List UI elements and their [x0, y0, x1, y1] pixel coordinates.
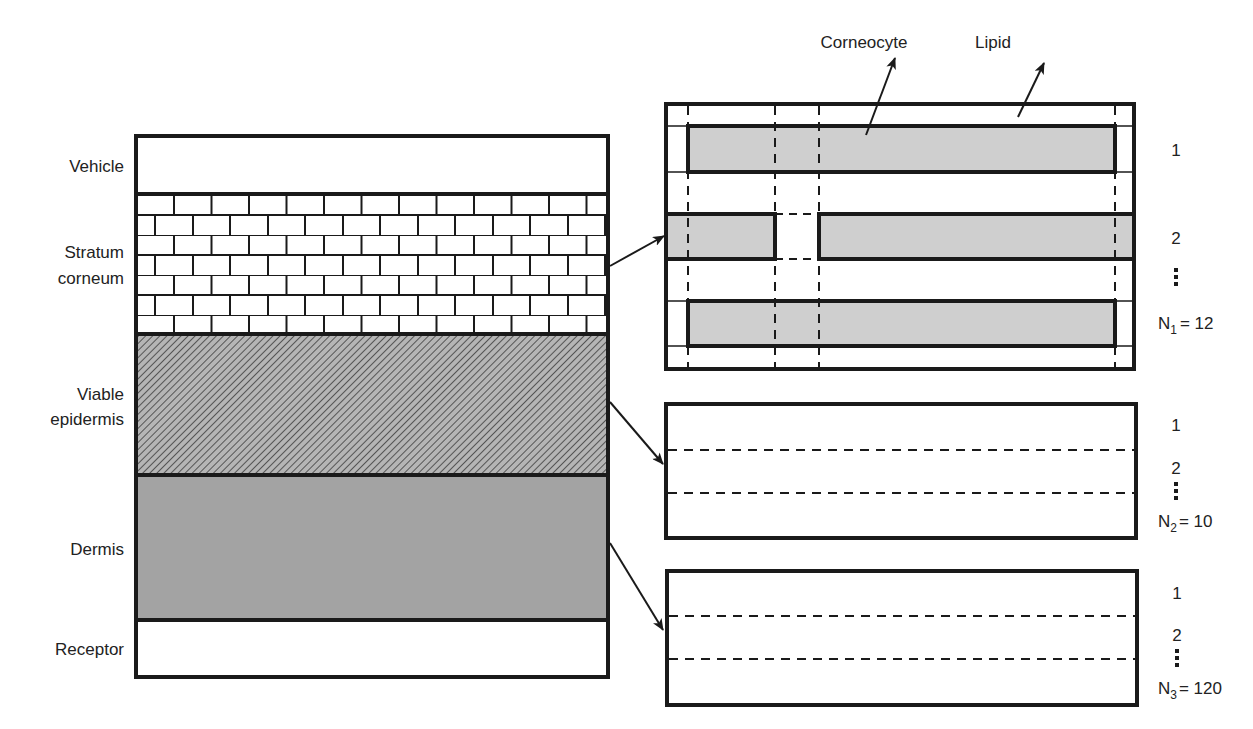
vertical-ellipsis-icon — [1175, 649, 1179, 667]
vertical-ellipsis-icon — [1174, 268, 1178, 286]
panel-stratum-corneum — [666, 104, 1134, 369]
label-viable-epidermis-1: Viable — [77, 385, 124, 404]
count-label-n1: N1= 12 — [1158, 314, 1214, 337]
layer-labels: Vehicle Stratum corneum Viable epidermis… — [50, 157, 124, 659]
skin-model-diagram: Vehicle Stratum corneum Viable epidermis… — [0, 0, 1253, 729]
corneocyte-row-1 — [688, 126, 1115, 172]
receptor-layer — [136, 620, 608, 677]
vertical-ellipsis-icon — [1174, 482, 1178, 500]
row-label-2: 2 — [1171, 459, 1180, 478]
corneocyte-row-n — [688, 301, 1115, 346]
viable-epidermis-layer — [136, 334, 608, 475]
count-label-n2: N2= 10 — [1158, 512, 1213, 535]
callout-corneocyte: Corneocyte — [821, 33, 908, 52]
label-viable-epidermis-2: epidermis — [50, 410, 124, 429]
corneocyte-row-2-left — [667, 214, 775, 259]
row-label-1: 1 — [1172, 584, 1181, 603]
label-stratum-corneum-2: corneum — [58, 269, 124, 288]
count-label-n3: N3= 120 — [1158, 679, 1222, 702]
row-label-1: 1 — [1171, 141, 1180, 160]
arrow-stratum-corneum — [610, 236, 664, 266]
callout-lipid: Lipid — [975, 33, 1011, 52]
label-receptor: Receptor — [55, 640, 124, 659]
callouts: Corneocyte Lipid — [821, 33, 1044, 135]
corneocyte-row-2-right — [819, 214, 1133, 259]
row-label-1: 1 — [1171, 416, 1180, 435]
left-layer-stack — [136, 136, 608, 677]
label-stratum-corneum-1: Stratum — [64, 243, 124, 262]
stratum-corneum-layer — [136, 194, 608, 334]
arrow-viable-epidermis — [610, 402, 663, 464]
panel-dermis: 1 2 N3= 120 — [667, 571, 1222, 705]
row-label-2: 2 — [1172, 626, 1181, 645]
connector-arrows — [610, 236, 664, 630]
arrow-dermis — [610, 543, 663, 630]
panel-stratum-corneum-labels: 1 2 N1= 12 — [1158, 141, 1214, 337]
label-vehicle: Vehicle — [69, 157, 124, 176]
dermis-layer — [136, 475, 608, 620]
row-label-2: 2 — [1171, 229, 1180, 248]
label-dermis: Dermis — [70, 540, 124, 559]
panel-viable-epidermis: 1 2 N2= 10 — [666, 404, 1213, 538]
vehicle-layer — [136, 136, 608, 194]
